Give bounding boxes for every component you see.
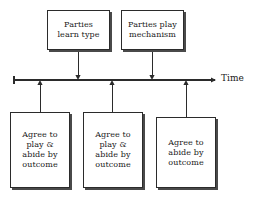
node-label: Parties learn type	[55, 20, 101, 40]
node-parties-play-mechanism: Parties play mechanism	[121, 10, 184, 50]
arrowhead-up-2	[183, 80, 188, 85]
arrowhead-up-1	[109, 80, 114, 85]
arrowhead-up-0	[37, 80, 42, 85]
node-agree-play-abide-2: Agree to play & abide by outcome	[83, 112, 143, 188]
timeline-diagram: Parties learn type Parties play mechanis…	[0, 0, 256, 198]
arrowhead-down-0	[75, 75, 80, 80]
node-agree-play-abide-1: Agree to play & abide by outcome	[10, 112, 70, 188]
node-parties-learn-type: Parties learn type	[47, 10, 110, 50]
node-label: Agree to play & abide by outcome	[93, 130, 133, 170]
node-label: Agree to abide by outcome	[166, 138, 206, 168]
arrowhead-down-1	[149, 75, 154, 80]
node-label: Parties play mechanism	[126, 20, 179, 40]
axis-arrowhead	[211, 77, 216, 82]
node-label: Agree to play & abide by outcome	[20, 130, 60, 170]
axis-label-time: Time	[221, 73, 244, 83]
node-agree-abide: Agree to abide by outcome	[156, 117, 216, 188]
